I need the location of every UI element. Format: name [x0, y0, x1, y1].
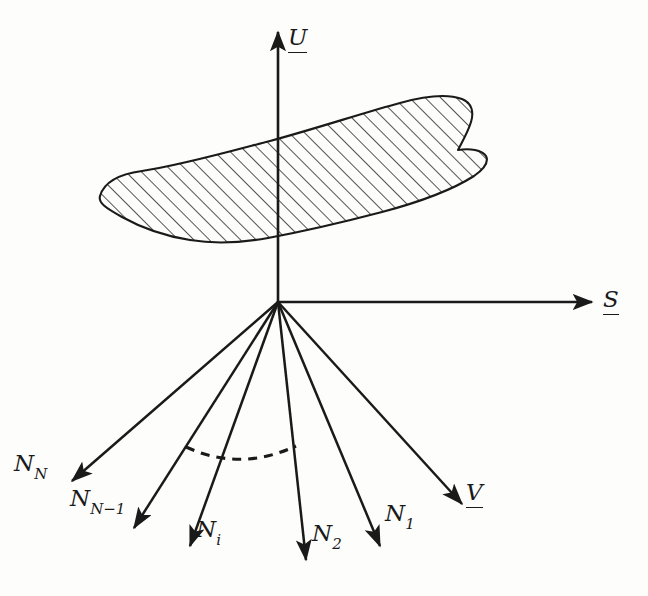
vector-label-n-1: N1 [385, 502, 415, 528]
vector-line-n-1 [278, 302, 380, 546]
vector-label-v: V [466, 481, 483, 504]
vector-label-n-N-minus-1: NN−1 [70, 487, 125, 513]
vector-line-n-N [72, 302, 278, 481]
vector-label-n-2: N2 [312, 522, 342, 548]
s-axis-label: S [603, 288, 619, 311]
vector-label-n-i: Ni [196, 518, 221, 544]
u-axis-label: U [288, 26, 307, 49]
cone-arc [186, 446, 296, 459]
vector-line-v-vector [278, 302, 462, 504]
vector-label-n-N: NN [14, 452, 47, 478]
vector-diagram-figure: U S NN NN−1 Ni N2 N1 V [0, 0, 648, 596]
vector-line-n-2 [278, 302, 306, 560]
vector-line-n-N-minus-1 [134, 302, 278, 528]
